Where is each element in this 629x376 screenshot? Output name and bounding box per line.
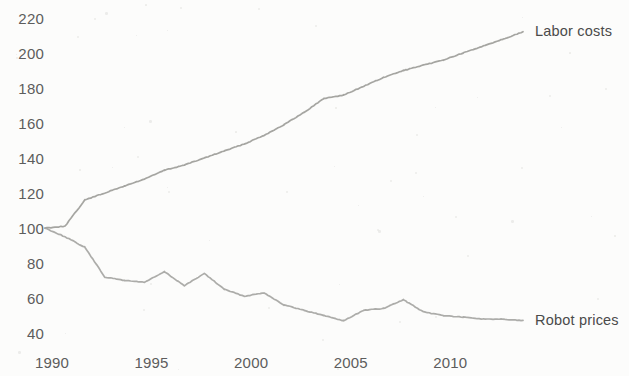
paper-speck bbox=[77, 36, 79, 38]
paper-speck bbox=[149, 120, 152, 123]
paper-speck bbox=[378, 230, 381, 233]
paper-speck bbox=[335, 107, 337, 109]
x-axis-tick-label: 2000 bbox=[234, 355, 268, 370]
paper-speck bbox=[337, 368, 339, 370]
paper-speck bbox=[105, 12, 108, 15]
paper-speck bbox=[150, 283, 152, 285]
paper-speck bbox=[455, 216, 457, 218]
paper-speck bbox=[235, 131, 237, 133]
series-line-labor-costs bbox=[45, 32, 523, 228]
paper-speck bbox=[16, 57, 18, 59]
series-label-labor-costs: Labor costs bbox=[535, 24, 612, 39]
paper-speck bbox=[286, 191, 288, 193]
series-group bbox=[45, 32, 523, 321]
x-axis: 19901995200020052010 bbox=[0, 355, 629, 375]
paper-speck bbox=[94, 18, 96, 20]
x-axis-tick-label: 1995 bbox=[134, 355, 168, 370]
x-axis-tick-label: 2010 bbox=[433, 355, 467, 370]
paper-speck bbox=[18, 351, 21, 354]
paper-speck bbox=[569, 52, 571, 54]
x-axis-tick-label: 2005 bbox=[334, 355, 368, 370]
series-label-robot-prices: Robot prices bbox=[535, 313, 619, 328]
paper-speck bbox=[614, 235, 616, 237]
paper-speck bbox=[435, 316, 437, 318]
paper-speck bbox=[79, 169, 81, 171]
paper-speck bbox=[145, 4, 147, 6]
paper-speck bbox=[322, 339, 324, 341]
paper-speck bbox=[511, 220, 514, 223]
line-chart: 220200180160140120100806040 Labor costs … bbox=[0, 0, 629, 376]
x-axis-tick-label: 1990 bbox=[35, 355, 69, 370]
paper-speck bbox=[358, 205, 359, 206]
paper-speck bbox=[258, 8, 260, 10]
series-line-robot-prices bbox=[45, 228, 523, 321]
